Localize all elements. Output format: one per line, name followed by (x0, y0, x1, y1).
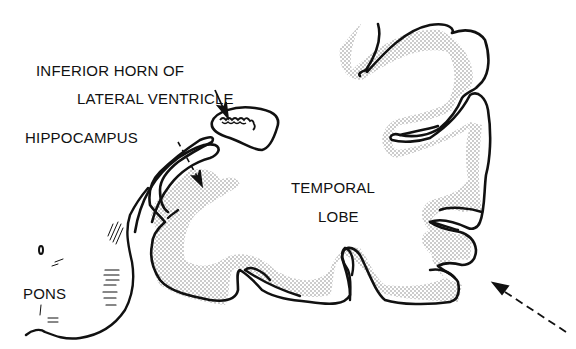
label-inferior-horn-line1: INFERIOR HORN OF (36, 63, 184, 78)
label-temporal-lobe-line2: LOBE (318, 209, 359, 224)
pons-outline (26, 188, 148, 339)
inferior-horn-ventricle (212, 107, 278, 150)
approach-direction-arrow (493, 283, 566, 332)
label-pons: PONS (23, 286, 66, 301)
label-hippocampus: HIPPOCAMPUS (25, 130, 138, 145)
label-temporal-lobe-line1: TEMPORAL (291, 180, 375, 195)
label-inferior-horn-line2: LATERAL VENTRICLE (77, 91, 234, 106)
brain-section-drawing (0, 0, 576, 349)
diagram-canvas: INFERIOR HORN OF LATERAL VENTRICLE HIPPO… (0, 0, 576, 349)
cortex-stipple (151, 22, 482, 305)
